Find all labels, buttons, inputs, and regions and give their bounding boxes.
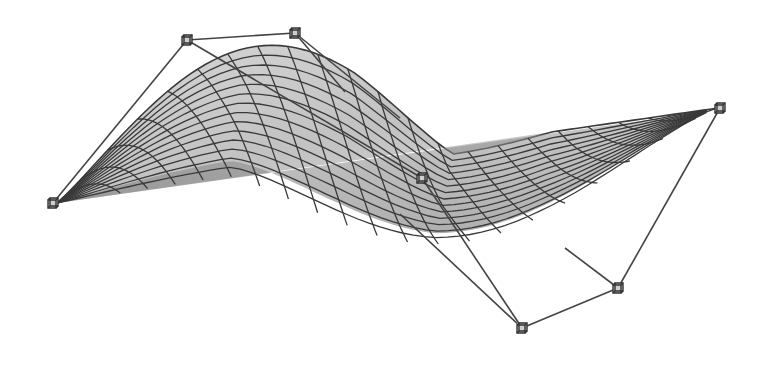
surface-canvas — [0, 0, 763, 366]
control-point-cube-icon[interactable] — [517, 323, 527, 333]
control-point-cube-icon[interactable] — [290, 28, 300, 38]
control-net-edge — [522, 288, 618, 328]
control-point-cube-icon[interactable] — [182, 35, 192, 45]
control-net-edge — [565, 248, 618, 288]
control-point-cube-icon[interactable] — [48, 198, 58, 208]
control-point-cube-icon[interactable] — [613, 283, 623, 293]
control-point-cube-icon[interactable] — [417, 173, 427, 183]
bezier-surface-figure: Bezier surface with control net — [0, 0, 763, 366]
control-net-edge — [187, 33, 295, 40]
control-point-cube-icon[interactable] — [715, 103, 725, 113]
bezier-surface — [57, 45, 718, 244]
